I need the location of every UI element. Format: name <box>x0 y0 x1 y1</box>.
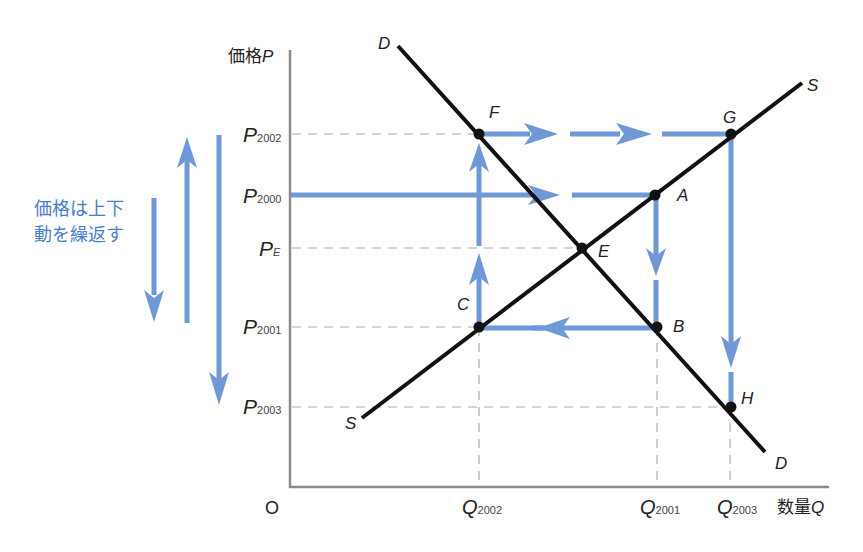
point-label-c: C <box>457 296 469 313</box>
y-tick-p2000: P2000 <box>243 185 282 206</box>
tick-base: P <box>243 184 257 207</box>
tick-sub: 2003 <box>733 504 757 516</box>
tick-base: Q <box>640 496 656 518</box>
point-h <box>726 402 737 413</box>
point-label-h: H <box>741 390 753 407</box>
tick-sub: 2003 <box>257 404 281 416</box>
note-line-2: 動を繰返す <box>34 222 124 248</box>
x-axis-label-text: 数量 <box>777 498 811 517</box>
y-tick-p2002: P2002 <box>243 124 282 145</box>
x-tick-q2002: Q2002 <box>462 497 502 517</box>
tick-sub: 2002 <box>257 132 281 144</box>
point-g <box>726 129 737 140</box>
y-axis-label: 価格P <box>228 48 273 65</box>
tick-sub: E <box>273 246 280 258</box>
tick-sub: 2001 <box>656 504 680 516</box>
price-oscillation-note: 価格は上下 動を繰返す <box>34 196 124 248</box>
tick-sub: 2001 <box>257 324 281 336</box>
point-e <box>577 243 588 254</box>
y-tick-pe: PE <box>259 238 280 259</box>
point-label-a: A <box>677 187 688 204</box>
x-axis-var: Q <box>811 498 824 517</box>
tick-base: P <box>243 395 257 418</box>
point-c <box>474 322 485 333</box>
cobweb-diagram <box>0 0 863 552</box>
point-a <box>650 190 661 201</box>
tick-sub: 2000 <box>257 193 281 205</box>
tick-base: Q <box>462 496 478 518</box>
y-tick-p2003: P2003 <box>243 396 282 417</box>
y-tick-p2001: P2001 <box>243 316 282 337</box>
supply-label-top: S <box>807 77 818 94</box>
demand-label-bottom: D <box>775 455 787 472</box>
cobweb-path <box>154 134 731 407</box>
point-label-g: G <box>723 109 736 126</box>
tick-base: P <box>243 123 257 146</box>
demand-label-top: D <box>378 35 390 52</box>
y-axis-label-text: 価格 <box>228 47 262 66</box>
supply-label-bottom: S <box>345 415 356 432</box>
y-axis-var: P <box>262 47 273 66</box>
x-tick-q2003: Q2003 <box>717 497 757 517</box>
origin-label: O <box>265 499 279 517</box>
x-axis-label: 数量Q <box>777 499 824 516</box>
point-f <box>474 129 485 140</box>
point-label-b: B <box>673 318 684 335</box>
point-label-f: F <box>489 104 499 121</box>
tick-base: P <box>259 237 273 260</box>
point-label-e: E <box>598 243 609 260</box>
arrowheads <box>144 123 741 405</box>
x-tick-q2001: Q2001 <box>640 497 680 517</box>
point-b <box>652 322 663 333</box>
tick-base: P <box>243 315 257 338</box>
arrow-right-icon <box>616 123 652 145</box>
note-line-1: 価格は上下 <box>34 196 124 222</box>
tick-sub: 2002 <box>478 504 502 516</box>
tick-base: Q <box>717 496 733 518</box>
